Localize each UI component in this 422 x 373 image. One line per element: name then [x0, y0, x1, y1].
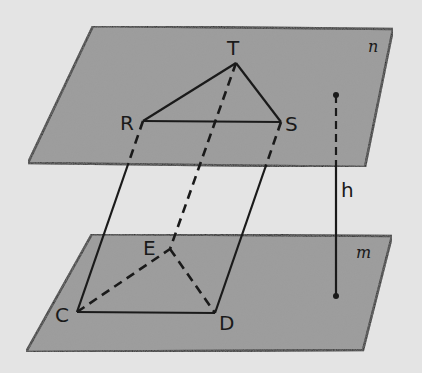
height-top-point	[333, 92, 339, 98]
plane-label-n: n	[368, 37, 378, 56]
height-label: h	[341, 178, 354, 202]
vertex-label-s: S	[285, 112, 298, 136]
prism-diagram: nmhTRSECD	[0, 0, 422, 373]
edge-rs	[143, 121, 281, 122]
vertex-label-d: D	[219, 311, 234, 335]
edge-cd	[77, 312, 215, 313]
plane-label-m: m	[356, 243, 371, 262]
vertex-label-c: C	[55, 303, 69, 327]
vertex-label-e: E	[143, 236, 156, 260]
vertex-label-t: T	[226, 36, 240, 60]
height-bottom-point	[333, 293, 339, 299]
vertex-label-r: R	[120, 111, 134, 135]
